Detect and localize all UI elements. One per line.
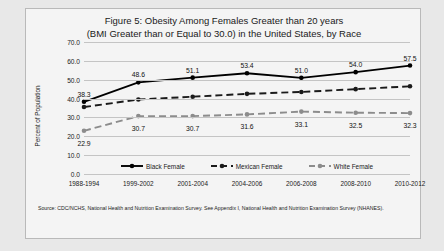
data-point — [353, 70, 358, 75]
data-point-label: 54.0 — [349, 61, 362, 68]
data-point-label: 32.3 — [403, 122, 416, 129]
y-axis-tick-label: 60.0 — [67, 57, 80, 64]
chart-title-line-1: Figure 5: Obesity Among Females Greater … — [36, 15, 412, 28]
data-point — [299, 90, 304, 95]
data-point — [136, 80, 141, 85]
data-point-label: 51.0 — [295, 67, 308, 74]
legend-item[interactable]: Black Female — [121, 162, 185, 170]
series-line — [84, 86, 410, 107]
data-point-label: 30.7 — [132, 125, 145, 132]
data-point-label: 51.1 — [186, 67, 199, 74]
data-point — [408, 84, 413, 89]
x-axis-tick-labels: 1988-19941999-20022001-20042004-20062006… — [84, 180, 410, 192]
data-point-label: 22.9 — [77, 140, 90, 147]
chart-title-line-2: (BMI Greater than or Equal to 30.0) in t… — [36, 28, 412, 41]
gridline — [84, 99, 410, 100]
data-point — [353, 110, 358, 115]
data-point-label: 33.1 — [295, 121, 308, 128]
y-axis-tick-label: 10.0 — [67, 152, 80, 159]
y-axis-tick-label: 70.0 — [67, 39, 80, 46]
figure-card: Figure 5: Obesity Among Females Greater … — [25, 8, 421, 239]
data-point-label: 53.4 — [240, 62, 253, 69]
legend-label: Black Female — [146, 163, 185, 170]
data-point — [82, 105, 87, 110]
legend-label: White Female — [334, 163, 373, 170]
data-point-label: 38.3 — [77, 91, 90, 98]
data-point-label: 57.5 — [403, 55, 416, 62]
data-point — [245, 92, 250, 97]
data-point-label: 48.6 — [132, 71, 145, 78]
y-axis-tick-labels: 0.010.020.030.040.050.060.070.0 — [54, 42, 80, 174]
gridline — [84, 42, 410, 43]
x-axis-tick-label: 2001-2004 — [177, 180, 208, 187]
data-point — [245, 112, 250, 117]
x-axis-tick-label: 2010-2012 — [395, 180, 426, 187]
legend-item[interactable]: Mexican Female — [211, 162, 283, 170]
legend-swatch-icon — [121, 162, 143, 170]
chart-plot-wrapper: Percent of Population 0.010.020.030.040.… — [40, 42, 412, 194]
legend-swatch-icon — [309, 162, 331, 170]
y-axis-title: Percent of Population — [34, 76, 41, 156]
data-point-label: 31.6 — [240, 123, 253, 130]
data-point — [408, 111, 413, 116]
chart-legend: Black FemaleMexican FemaleWhite Female — [84, 160, 410, 172]
gridline — [84, 136, 410, 137]
legend-swatch-icon — [211, 162, 233, 170]
data-point-label: 30.7 — [186, 125, 199, 132]
y-axis-tick-label: 30.0 — [67, 114, 80, 121]
data-point — [299, 109, 304, 114]
y-axis-tick-label: 0.0 — [71, 171, 80, 178]
source-note: Source: CDC/NCHS, National Health and Nu… — [38, 205, 406, 213]
data-point — [408, 63, 413, 68]
x-axis-tick-label: 2004-2006 — [232, 180, 263, 187]
legend-item[interactable]: White Female — [309, 162, 373, 170]
gridline — [84, 80, 410, 81]
data-point — [245, 71, 250, 76]
y-axis-tick-label: 20.0 — [67, 133, 80, 140]
gridline — [84, 174, 410, 175]
data-point — [82, 99, 87, 104]
x-axis-tick-label: 2008-2010 — [340, 180, 371, 187]
x-axis-tick-label: 2006-2008 — [286, 180, 317, 187]
gridline — [84, 117, 410, 118]
data-point-label: 32.5 — [349, 122, 362, 129]
x-axis-tick-label: 1988-1994 — [69, 180, 100, 187]
x-axis-tick-label: 1999-2002 — [123, 180, 154, 187]
y-axis-tick-label: 50.0 — [67, 76, 80, 83]
legend-label: Mexican Female — [236, 163, 283, 170]
gridline — [84, 155, 410, 156]
data-point — [353, 87, 358, 92]
plot-area: 38.348.651.153.451.054.057.522.930.730.7… — [84, 42, 410, 174]
chart-title: Figure 5: Obesity Among Females Greater … — [36, 15, 412, 40]
data-point — [82, 129, 87, 134]
